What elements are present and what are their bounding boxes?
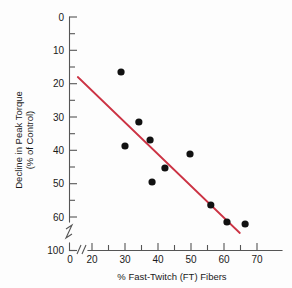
data-point bbox=[148, 178, 155, 185]
data-point bbox=[207, 201, 214, 208]
scatter-plot: 0 10 20 30 40 50 60 100 bbox=[0, 0, 292, 288]
y-axis-title-line1: Decline in Peak Torque bbox=[13, 91, 24, 189]
y-tick-label-50: 50 bbox=[53, 178, 65, 189]
x-tick-label-30: 30 bbox=[119, 254, 131, 265]
trendline bbox=[78, 77, 240, 233]
y-tick-label-30: 30 bbox=[53, 112, 65, 123]
data-point bbox=[223, 218, 230, 225]
data-point bbox=[161, 164, 168, 171]
y-axis-break-icon bbox=[66, 225, 72, 238]
data-point bbox=[117, 68, 124, 75]
data-point bbox=[146, 136, 153, 143]
x-tick-label-origin: 0 bbox=[67, 254, 73, 265]
y-tick-labels: 0 10 20 30 40 50 60 100 bbox=[47, 12, 64, 257]
x-tick-labels: 0 20 30 40 50 60 70 bbox=[67, 254, 263, 265]
data-point bbox=[121, 142, 128, 149]
y-tick-label-10: 10 bbox=[53, 45, 65, 56]
x-axis bbox=[70, 245, 283, 254]
data-point bbox=[135, 118, 142, 125]
y-tick-label-40: 40 bbox=[53, 145, 65, 156]
y-tick-label-20: 20 bbox=[53, 78, 65, 89]
data-points-layer bbox=[117, 68, 248, 227]
figure-container: 0 10 20 30 40 50 60 100 bbox=[0, 0, 292, 288]
x-tick-label-40: 40 bbox=[152, 254, 164, 265]
y-tick-label-0: 0 bbox=[58, 12, 64, 23]
x-tick-label-50: 50 bbox=[185, 254, 197, 265]
x-axis-break-icon bbox=[77, 245, 86, 254]
data-point bbox=[186, 150, 193, 157]
x-minor-ticks bbox=[109, 245, 241, 251]
y-tick-label-100: 100 bbox=[47, 245, 64, 256]
data-point bbox=[242, 220, 249, 227]
y-axis-title: Decline in Peak Torque (% of Control) bbox=[13, 91, 35, 189]
y-axis-title-line2: (% of Control) bbox=[24, 111, 35, 170]
x-tick-label-20: 20 bbox=[86, 254, 98, 265]
x-tick-label-60: 60 bbox=[218, 254, 230, 265]
y-tick-label-60: 60 bbox=[53, 212, 65, 223]
x-tick-label-70: 70 bbox=[251, 254, 263, 265]
x-axis-title: % Fast-Twitch (FT) Fibers bbox=[117, 271, 227, 282]
